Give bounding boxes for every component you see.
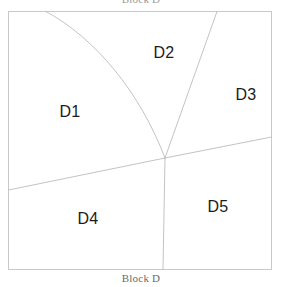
- partition-diagram: [0, 0, 282, 287]
- region-label-d5: D5: [208, 198, 229, 216]
- block-frame: [9, 12, 272, 270]
- region-label-d4: D4: [78, 210, 99, 228]
- figure-root: Block D D1 D2 D3 D4 D5 Block D: [0, 0, 282, 287]
- region-label-d3: D3: [236, 86, 257, 104]
- region-label-d2: D2: [154, 44, 175, 62]
- region-label-d1: D1: [60, 103, 81, 121]
- figure-bottom-caption: Block D: [0, 272, 282, 284]
